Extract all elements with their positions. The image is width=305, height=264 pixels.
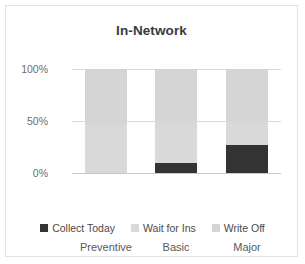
- chart-frame: In-Network 100% 50% 0%: [5, 5, 298, 257]
- legend-label: Wait for Ins: [143, 222, 196, 234]
- plot-area: 100% 50% 0% Preventive Basic Major: [72, 69, 281, 174]
- x-axis-label-major: Major: [202, 241, 292, 253]
- bar-group-major[interactable]: [226, 69, 268, 173]
- y-axis-tick-100: 100%: [2, 63, 48, 75]
- bar-segment-wait-for-ins: [85, 125, 127, 173]
- legend-item-wait-for-ins[interactable]: Wait for Ins: [131, 222, 196, 234]
- bar-segment-write-off: [226, 69, 268, 121]
- bar-segment-wait-for-ins: [155, 121, 197, 163]
- bar-group-basic[interactable]: [155, 69, 197, 173]
- chart-legend: Collect Today Wait for Ins Write Off: [6, 222, 299, 234]
- y-axis-tick-0: 0%: [2, 167, 48, 179]
- legend-label: Collect Today: [52, 222, 115, 234]
- bar-segment-collect-today: [226, 145, 268, 173]
- plot-wrapper: 100% 50% 0% Preventive Basic Major: [6, 6, 299, 258]
- y-axis-tick-50: 50%: [2, 115, 48, 127]
- legend-swatch-icon: [40, 224, 48, 232]
- axis-baseline: [72, 173, 281, 174]
- legend-item-collect-today[interactable]: Collect Today: [40, 222, 115, 234]
- bar-segment-write-off: [85, 69, 127, 125]
- bar-group-preventive[interactable]: [85, 69, 127, 173]
- legend-item-write-off[interactable]: Write Off: [212, 222, 265, 234]
- legend-label: Write Off: [224, 222, 265, 234]
- bar-segment-collect-today: [155, 163, 197, 173]
- bar-segment-write-off: [155, 69, 197, 121]
- bar-segment-wait-for-ins: [226, 121, 268, 145]
- legend-swatch-icon: [212, 224, 220, 232]
- legend-swatch-icon: [131, 224, 139, 232]
